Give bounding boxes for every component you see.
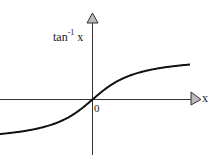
y-axis-label-base: tan — [53, 30, 68, 44]
y-axis-label-exponent: -1 — [68, 28, 75, 37]
arctan-chart — [0, 0, 221, 163]
y-axis-arrow-icon — [87, 13, 98, 23]
y-axis-label-var: x — [77, 30, 83, 44]
x-axis-arrow-icon — [191, 92, 201, 105]
origin-label: 0 — [94, 102, 100, 114]
x-axis-label: x — [202, 91, 208, 106]
y-axis-label: tan-1 x — [53, 29, 83, 45]
